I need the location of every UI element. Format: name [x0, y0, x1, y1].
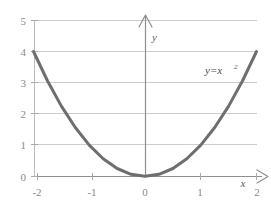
x-tick-label--1: -1: [87, 186, 96, 198]
chart-figure: 5 4 3 2 1 0 -2 -1 0 1 2 y x y=x 2: [0, 0, 271, 212]
curve-equation-base: y=x: [204, 64, 222, 76]
parabola-plot: 5 4 3 2 1 0 -2 -1 0 1 2 y x y=x 2: [0, 0, 271, 212]
x-tick-label-0: 0: [142, 186, 148, 198]
x-tick-label-1: 1: [197, 186, 203, 198]
y-tick-label-5: 5: [21, 15, 27, 27]
x-tick-label--2: -2: [32, 186, 41, 198]
x-tick-label-2: 2: [254, 186, 260, 198]
curve-equation-exponent: 2: [234, 63, 238, 71]
x-axis-label: x: [240, 177, 246, 189]
y-tick-label-1: 1: [21, 139, 27, 151]
y-axis-label: y: [151, 31, 157, 43]
y-tick-label-2: 2: [21, 108, 27, 120]
y-tick-label-3: 3: [21, 77, 27, 89]
y-tick-label-4: 4: [21, 46, 27, 58]
y-tick-label-0: 0: [21, 171, 27, 183]
